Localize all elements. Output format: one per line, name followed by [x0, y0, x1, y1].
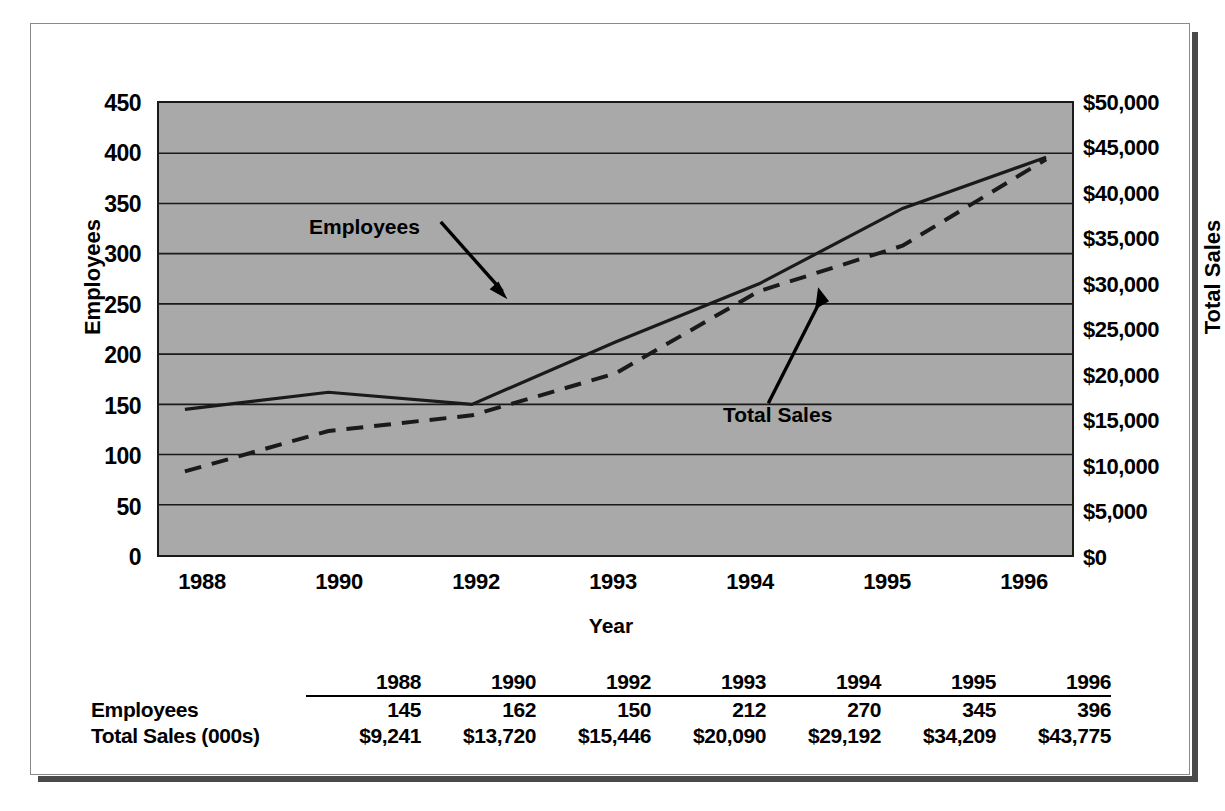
- table-header-1993: 1993: [651, 669, 766, 696]
- y-tick-left-150: 150: [71, 393, 141, 420]
- plot-area: Employees Total Sales: [157, 101, 1074, 557]
- y-tick-right-20000: $20,000: [1083, 363, 1203, 389]
- y-tick-left-250: 250: [71, 292, 141, 319]
- table-header-1996: 1996: [996, 669, 1111, 696]
- table-cell-sales-1988: $9,241: [306, 723, 421, 749]
- employees-annotation-label: Employees: [309, 215, 420, 239]
- table-row: Employees 145 162 150 212 270 345 396: [91, 696, 1111, 723]
- frame-shadow-bottom: [38, 776, 1198, 782]
- table-cell-employees-1992: 150: [536, 696, 651, 723]
- table-cell-sales-1995: $34,209: [881, 723, 996, 749]
- table-row-label-total-sales: Total Sales (000s): [91, 723, 306, 749]
- table-cell-sales-1992: $15,446: [536, 723, 651, 749]
- x-tick-1995: 1995: [832, 569, 942, 595]
- table-header-row: 1988 1990 1992 1993 1994 1995 1996: [91, 669, 1111, 696]
- y-tick-right-15000: $15,000: [1083, 408, 1203, 434]
- y-tick-left-100: 100: [71, 443, 141, 470]
- x-tick-1990: 1990: [284, 569, 394, 595]
- table-cell-sales-1993: $20,090: [651, 723, 766, 749]
- x-tick-1996: 1996: [969, 569, 1079, 595]
- data-table: 1988 1990 1992 1993 1994 1995 1996 Emplo…: [91, 669, 1111, 749]
- y-tick-left-400: 400: [71, 140, 141, 167]
- y-axis-title-right: Total Sales: [1200, 167, 1225, 387]
- gridlines: [159, 153, 1072, 505]
- table-cell-sales-1990: $13,720: [421, 723, 536, 749]
- table-cell-sales-1996: $43,775: [996, 723, 1111, 749]
- y-tick-right-5000: $5,000: [1083, 499, 1203, 525]
- y-tick-right-0: $0: [1083, 545, 1203, 571]
- plot-svg: [159, 103, 1072, 555]
- table-header-1990: 1990: [421, 669, 536, 696]
- figure-frame: Employees Total Sales 450 400 350 300 25…: [30, 23, 1190, 775]
- x-tick-1992: 1992: [421, 569, 531, 595]
- table-cell-sales-1994: $29,192: [766, 723, 881, 749]
- y-tick-right-30000: $30,000: [1083, 272, 1203, 298]
- employees-annotation-arrow: [441, 222, 508, 299]
- total-sales-annotation-label: Total Sales: [723, 403, 832, 427]
- x-axis-title: Year: [31, 614, 1191, 638]
- table-row: Total Sales (000s) $9,241 $13,720 $15,44…: [91, 723, 1111, 749]
- table-header-1988: 1988: [306, 669, 421, 696]
- table-cell-employees-1990: 162: [421, 696, 536, 723]
- table-header-1995: 1995: [881, 669, 996, 696]
- employees-line: [185, 157, 1046, 409]
- table-cell-employees-1988: 145: [306, 696, 421, 723]
- y-tick-right-10000: $10,000: [1083, 454, 1203, 480]
- table-cell-employees-1995: 345: [881, 696, 996, 723]
- x-tick-1994: 1994: [695, 569, 805, 595]
- total-sales-annotation-arrow: [768, 287, 829, 403]
- table-header-1994: 1994: [766, 669, 881, 696]
- table-cell-employees-1993: 212: [651, 696, 766, 723]
- y-tick-left-0: 0: [71, 544, 141, 571]
- y-tick-right-35000: $35,000: [1083, 226, 1203, 252]
- y-tick-right-45000: $45,000: [1083, 135, 1203, 161]
- y-tick-left-450: 450: [71, 90, 141, 117]
- table-cell-employees-1996: 396: [996, 696, 1111, 723]
- y-tick-right-40000: $40,000: [1083, 181, 1203, 207]
- x-tick-1988: 1988: [147, 569, 257, 595]
- y-tick-right-25000: $25,000: [1083, 317, 1203, 343]
- y-tick-left-50: 50: [71, 494, 141, 521]
- y-tick-right-50000: $50,000: [1083, 90, 1203, 116]
- total-sales-line: [185, 159, 1046, 471]
- y-tick-left-300: 300: [71, 241, 141, 268]
- table-corner-cell: [91, 669, 306, 696]
- x-tick-1993: 1993: [558, 569, 668, 595]
- table-row-label-employees: Employees: [91, 696, 306, 723]
- table-header-1992: 1992: [536, 669, 651, 696]
- table-cell-employees-1994: 270: [766, 696, 881, 723]
- y-tick-left-200: 200: [71, 342, 141, 369]
- y-tick-left-350: 350: [71, 191, 141, 218]
